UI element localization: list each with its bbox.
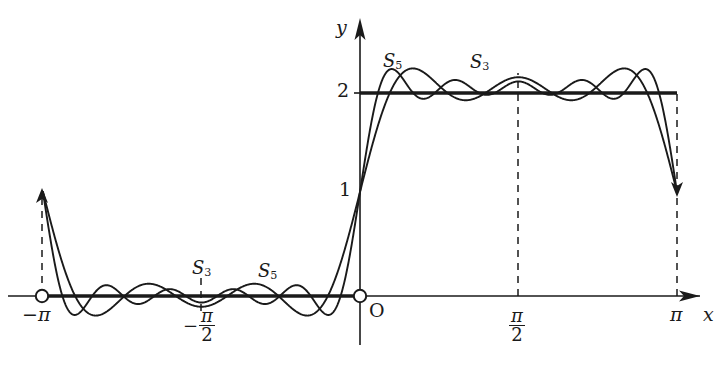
curve-label-subscript: 3 — [204, 266, 211, 279]
curve-label-s5-left: S5 — [258, 262, 277, 281]
curve-label-subscript: 3 — [482, 60, 489, 73]
arrowhead-at-pi-bottom — [671, 182, 683, 197]
origin-label: O — [369, 301, 385, 320]
curve-label-subscript: 5 — [270, 269, 277, 282]
y-tick-label-2: 2 — [337, 81, 349, 100]
curve-label-s3-left: S3 — [192, 259, 211, 278]
pi-over-2-fraction: π2 — [509, 307, 525, 344]
open-point-at-origin — [354, 290, 366, 302]
y-tick-label-1: 1 — [339, 180, 351, 199]
curve-label-base: S — [383, 50, 395, 71]
fraction-denominator-2: 2 — [199, 326, 215, 344]
x-tick-label-pi: π — [670, 305, 683, 324]
y-axis-label: y — [336, 18, 347, 37]
open-point-at-minus-pi — [36, 290, 48, 302]
x-tick-label-pi-over-2: π2 — [509, 307, 525, 344]
curve-label-s5-right: S5 — [383, 52, 402, 71]
x-axis-label: x — [703, 305, 714, 324]
plot-svg — [0, 0, 727, 382]
x-tick-label-minus-pi-over-2: −π2 — [183, 307, 215, 344]
curve-label-subscript: 5 — [395, 59, 402, 72]
x-tick-label-minus-pi: −π — [22, 305, 50, 324]
pi-over-2-fraction: π2 — [199, 307, 215, 344]
figure-canvas: y x O 1 2 −π π −π2 π2 S3 S5 S5 S3 — [0, 0, 727, 382]
minus-sign: − — [183, 315, 199, 336]
curve-label-base: S — [470, 51, 482, 72]
curve-label-s3-right: S3 — [470, 53, 489, 72]
curve-label-base: S — [192, 257, 204, 278]
fraction-denominator-2: 2 — [509, 326, 525, 344]
curve-label-base: S — [258, 260, 270, 281]
